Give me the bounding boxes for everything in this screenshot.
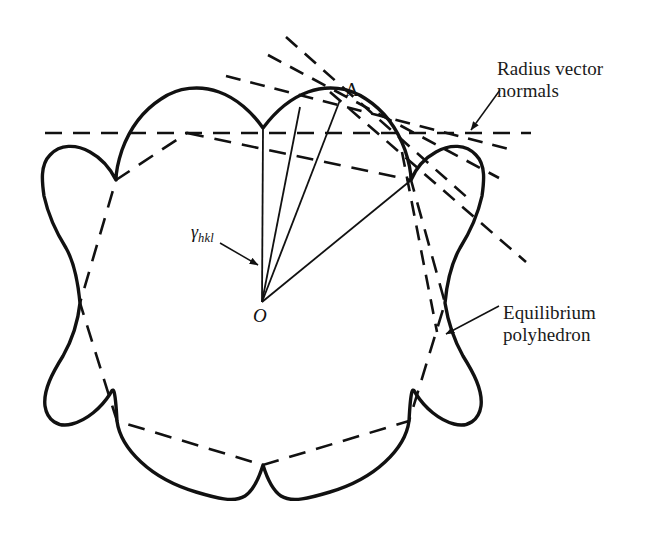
- gamma-hkl-label: γhkl: [191, 222, 214, 246]
- point-label-a: A: [345, 79, 359, 101]
- radius-vector-normals-label: Radius vector normals: [497, 58, 603, 103]
- normal-line-2: [268, 55, 499, 178]
- radius-vector-3: [262, 100, 340, 302]
- gamma-subscript: hkl: [198, 231, 214, 245]
- figure-container: A O γhkl Radius vector normals Equilibri…: [0, 0, 649, 536]
- radius-normals-arrow: [471, 90, 500, 130]
- radius-vector-4: [262, 181, 410, 302]
- radius-vectors: [262, 100, 410, 302]
- radius-vector-2: [262, 107, 300, 302]
- radius-vector-normal-lines: [226, 37, 526, 332]
- radius-vector-gamma-hkl: [262, 129, 263, 302]
- equilibrium-polyhedron-arrow: [446, 306, 499, 334]
- gamma-hkl-arrow: [220, 243, 258, 265]
- equilibrium-polyhedron-label: Equilibrium polyhedron: [503, 302, 596, 347]
- point-label-origin: O: [253, 305, 267, 327]
- normal-line-3: [286, 37, 470, 200]
